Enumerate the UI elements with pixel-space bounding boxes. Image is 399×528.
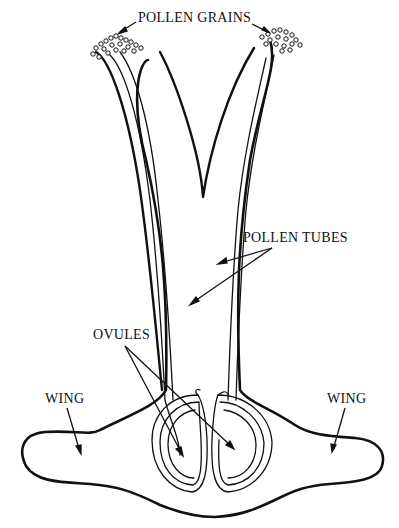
arm-fork [160, 48, 254, 197]
pollen-grains-left [91, 34, 143, 59]
arrow-pollen-tubes-1 [220, 248, 272, 263]
label-ovules: OVULES [93, 327, 150, 343]
label-wing-left: WING [45, 391, 84, 407]
arrow-ovules-2 [125, 346, 232, 447]
label-pollen-grains: POLLEN GRAINS [138, 10, 251, 26]
label-pollen-tubes: POLLEN TUBES [243, 230, 348, 246]
arrow-wing-right [333, 408, 345, 450]
label-wing-right: WING [327, 391, 366, 407]
diagram-canvas [0, 0, 399, 528]
